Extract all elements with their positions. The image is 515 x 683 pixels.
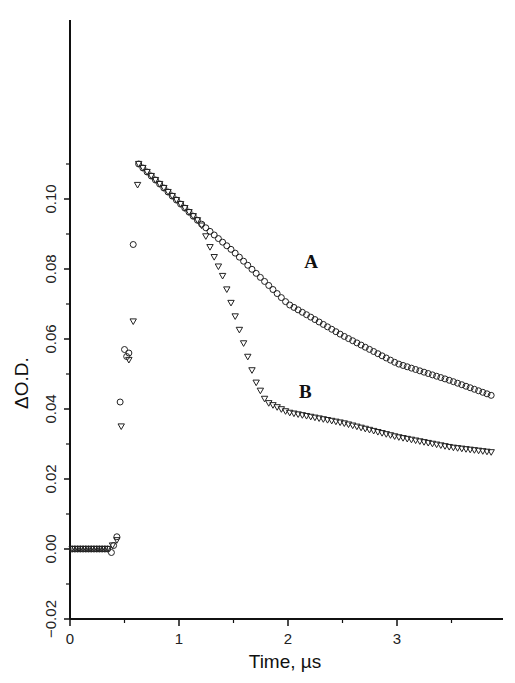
y-axis-title: ΔO.D. [11, 357, 32, 409]
data-point-circle [404, 364, 410, 370]
y-tick-label: 0.10 [42, 184, 59, 213]
data-point-circle [413, 366, 419, 372]
chart-figure: −0.020.000.020.040.060.080.100123 ΔO.D. … [0, 0, 515, 683]
data-point-triangle [253, 380, 259, 386]
data-point-triangle [488, 450, 494, 456]
x-tick-label: 2 [284, 630, 292, 647]
data-point-triangle [207, 245, 213, 251]
data-point-triangle [134, 182, 140, 188]
y-tick-label: 0.04 [42, 394, 59, 423]
data-point-triangle [228, 300, 234, 306]
data-point-triangle [224, 287, 230, 293]
x-tick-label: 3 [393, 630, 401, 647]
data-point-triangle [211, 255, 217, 261]
data-point-circle [417, 368, 423, 374]
y-tick-label: 0.08 [42, 254, 59, 283]
x-axis-title: Time, µs [249, 651, 322, 672]
data-point-triangle [118, 424, 124, 430]
y-tick-label: 0.00 [42, 534, 59, 563]
y-tick-label: 0.02 [42, 464, 59, 493]
data-point-circle [108, 550, 114, 556]
data-point-circle [283, 299, 289, 305]
data-point-triangle [236, 327, 242, 333]
data-point-circle [438, 375, 444, 381]
data-point-circle [434, 373, 440, 379]
y-tick-label: −0.02 [42, 600, 59, 638]
data-point-circle [400, 362, 406, 368]
curve-label-a: A [304, 251, 318, 272]
data-point-circle [429, 372, 435, 378]
x-tick-label: 0 [66, 630, 74, 647]
data-point-triangle [240, 341, 246, 347]
y-tick-label: 0.06 [42, 324, 59, 353]
series-b-triangles [69, 161, 494, 552]
data-point-triangle [245, 354, 251, 360]
data-point-triangle [219, 273, 225, 279]
data-point-triangle [130, 319, 136, 325]
x-tick-label: 1 [175, 630, 183, 647]
data-point-circle [421, 369, 427, 375]
data-point-circle [117, 399, 123, 405]
data-point-triangle [232, 314, 238, 320]
data-point-circle [425, 371, 431, 377]
data-point-circle [442, 376, 448, 382]
data-point-triangle [203, 234, 209, 240]
curve-label-b: B [299, 381, 312, 402]
data-point-circle [130, 242, 136, 248]
data-point-triangle [249, 368, 255, 374]
data-point-triangle [215, 264, 221, 270]
data-point-circle [408, 365, 414, 371]
series-a-circles [69, 161, 494, 556]
axes: −0.020.000.020.040.060.080.100123 [42, 20, 503, 647]
data-point-triangle [257, 388, 263, 394]
